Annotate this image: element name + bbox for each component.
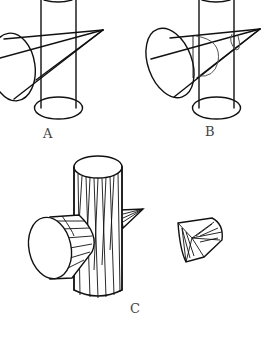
cone-a	[0, 30, 103, 104]
panel-b	[137, 0, 260, 119]
diagram-canvas	[0, 0, 268, 337]
panel-label-a: A	[43, 126, 52, 141]
panel-label-c: C	[130, 301, 140, 316]
intersection-piece-c	[178, 218, 222, 262]
cylinder-b	[193, 0, 241, 119]
panel-label-b: B	[205, 124, 215, 139]
panel-c	[23, 156, 222, 298]
panel-a	[0, 0, 103, 119]
cylinder-a	[35, 0, 83, 119]
cone-tip-c	[120, 209, 143, 228]
